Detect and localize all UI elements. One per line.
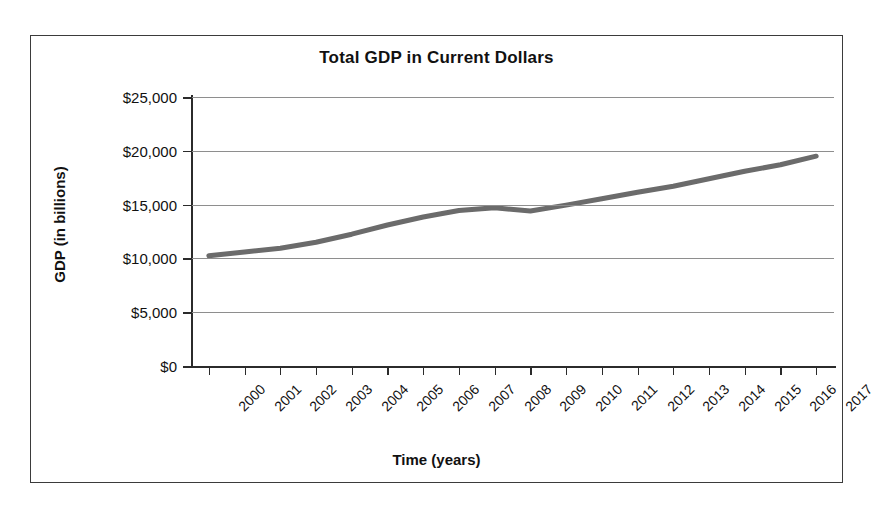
- x-axis-tick: [209, 367, 210, 375]
- x-axis-tick: [423, 367, 424, 375]
- chart-frame: Total GDP in Current Dollars GDP (in bil…: [30, 35, 843, 483]
- x-axis-tick: [387, 367, 388, 375]
- y-axis-tick: [183, 97, 192, 99]
- x-axis-tick-label: 2013: [699, 381, 732, 414]
- plot-area: [191, 97, 834, 366]
- x-axis-tick: [745, 367, 746, 375]
- x-axis-tick-label: 2017: [842, 381, 871, 414]
- y-axis-tick: [183, 312, 192, 314]
- data-series-line: [191, 97, 834, 366]
- x-axis-tick-label: 2014: [735, 381, 768, 414]
- y-axis-tick: [183, 151, 192, 153]
- x-axis-tick: [245, 367, 246, 375]
- y-axis-tick-label: $5,000: [65, 304, 177, 321]
- gridline: [191, 97, 834, 98]
- x-axis-tick: [316, 367, 317, 375]
- x-axis-tick-label: 2005: [414, 381, 447, 414]
- y-axis-tick: [183, 205, 192, 207]
- x-axis-tick: [638, 367, 639, 375]
- y-axis-tick: [183, 366, 192, 368]
- y-axis-tick-label: $10,000: [65, 250, 177, 267]
- x-axis-tick: [530, 367, 531, 375]
- x-axis-tick-label: 2000: [235, 381, 268, 414]
- x-axis-tick: [602, 367, 603, 375]
- x-axis-tick: [352, 367, 353, 375]
- x-axis-tick: [280, 367, 281, 375]
- x-axis-tick: [459, 367, 460, 375]
- y-axis-tick-label: $20,000: [65, 142, 177, 159]
- x-axis-tick: [709, 367, 710, 375]
- x-axis-tick-label: 2002: [306, 381, 339, 414]
- x-axis-tick-label: 2004: [378, 381, 411, 414]
- x-axis-tick: [566, 367, 567, 375]
- y-axis-tick-label: $15,000: [65, 196, 177, 213]
- x-axis-tick-label: 2001: [271, 381, 304, 414]
- x-axis-tick: [816, 367, 817, 375]
- y-axis-tick-label: $0: [65, 358, 177, 375]
- x-axis-tick-label: 2009: [556, 381, 589, 414]
- x-axis-tick-label: 2007: [485, 381, 518, 414]
- x-axis-tick-label: 2003: [342, 381, 375, 414]
- x-axis-tick: [495, 367, 496, 375]
- x-axis-tick-label: 2011: [628, 381, 661, 414]
- x-axis-tick-label: 2016: [807, 381, 840, 414]
- x-axis-line: [191, 366, 836, 368]
- x-axis-tick-label: 2008: [521, 381, 554, 414]
- gridline: [191, 312, 834, 313]
- x-axis-tick-label: 2012: [664, 381, 697, 414]
- x-axis-title: Time (years): [31, 451, 842, 468]
- x-axis-tick: [780, 367, 781, 375]
- x-axis-tick-label: 2015: [771, 381, 804, 414]
- x-axis-tick: [673, 367, 674, 375]
- y-axis-tick-label: $25,000: [65, 89, 177, 106]
- gridline: [191, 258, 834, 259]
- y-axis-tick-labels: $0$5,000$10,000$15,000$20,000$25,000: [59, 36, 177, 484]
- x-axis-tick-label: 2006: [449, 381, 482, 414]
- gridline: [191, 151, 834, 152]
- gridline: [191, 205, 834, 206]
- x-axis-tick-label: 2010: [592, 381, 625, 414]
- y-axis-tick: [183, 258, 192, 260]
